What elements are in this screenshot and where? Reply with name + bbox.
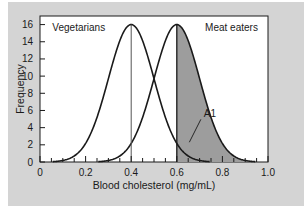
x-tick-label: 0.2 bbox=[79, 167, 93, 178]
cholesterol-distribution-chart: 00.20.40.60.81.0 0246810121416 Blood cho… bbox=[0, 0, 308, 208]
figure-container: 00.20.40.60.81.0 0246810121416 Blood cho… bbox=[0, 0, 308, 208]
x-axis-tick-labels: 00.20.40.60.81.0 bbox=[37, 167, 275, 178]
y-tick-label: 4 bbox=[27, 122, 33, 133]
y-tick-label: 8 bbox=[27, 88, 33, 99]
y-tick-label: 6 bbox=[27, 105, 33, 116]
label-meat-eaters: Meat eaters bbox=[205, 22, 258, 33]
x-tick-label: 0 bbox=[37, 167, 43, 178]
y-tick-label: 12 bbox=[22, 53, 34, 64]
plot-area bbox=[40, 16, 268, 162]
x-tick-label: 0.6 bbox=[170, 167, 184, 178]
x-tick-label: 1.0 bbox=[261, 167, 275, 178]
label-vegetarians: Vegetarians bbox=[52, 22, 105, 33]
x-tick-label: 0.4 bbox=[124, 167, 138, 178]
y-tick-label: 16 bbox=[22, 19, 34, 30]
y-tick-label: 14 bbox=[22, 36, 34, 47]
y-tick-label: 0 bbox=[27, 157, 33, 168]
y-axis-title: Frequency bbox=[14, 63, 26, 113]
area-label-a1: A1 bbox=[204, 108, 217, 119]
x-axis-title: Blood cholesterol (mg/mL) bbox=[93, 179, 216, 191]
y-tick-label: 2 bbox=[27, 139, 33, 150]
x-tick-label: 0.8 bbox=[215, 167, 229, 178]
